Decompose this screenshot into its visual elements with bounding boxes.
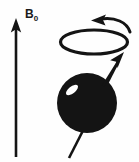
sphere-body bbox=[57, 73, 117, 133]
b0-symbol: B bbox=[25, 7, 34, 21]
b0-field-arrow bbox=[11, 18, 21, 157]
b0-label: B0 bbox=[25, 8, 38, 20]
precession-orbit bbox=[61, 30, 128, 54]
moment-arrow-upper-shaft bbox=[103, 62, 118, 86]
nucleus-sphere bbox=[57, 73, 117, 133]
orbit-ellipse bbox=[61, 30, 128, 54]
moment-arrow-overlay bbox=[103, 62, 118, 86]
diagram-canvas bbox=[0, 0, 139, 162]
precession-diagram: B0 bbox=[0, 0, 139, 162]
b0-subscript: 0 bbox=[34, 14, 38, 23]
